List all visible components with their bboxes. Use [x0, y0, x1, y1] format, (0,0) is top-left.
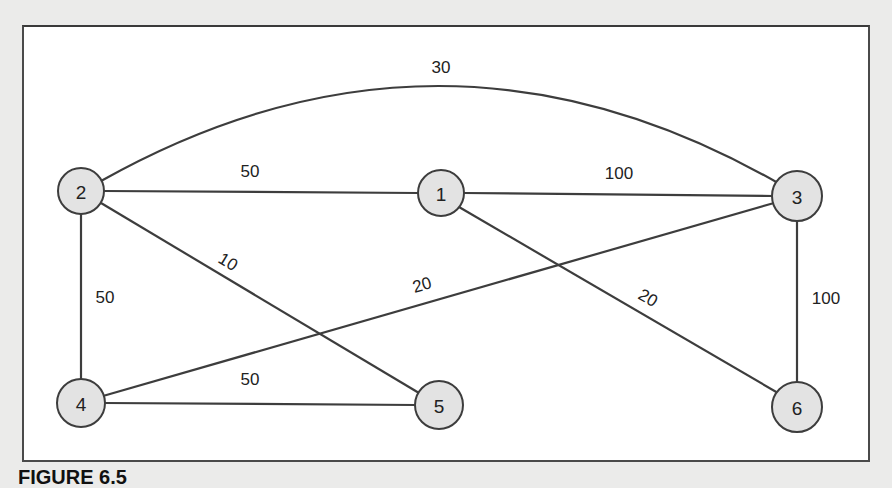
- node-1: 1: [418, 170, 464, 216]
- edge-4-3: [103, 203, 774, 396]
- edge-label-4-5: 50: [241, 370, 260, 389]
- node-6: 6: [772, 382, 822, 432]
- edge-label-3-6: 100: [812, 289, 840, 308]
- edge-1-6: [459, 207, 778, 393]
- svg-text:1: 1: [436, 184, 447, 205]
- svg-text:3: 3: [792, 187, 803, 208]
- edge-label-2-3: 30: [432, 58, 451, 77]
- edge-2-3: [101, 86, 778, 183]
- edge-label-2-4: 50: [96, 288, 115, 307]
- svg-text:6: 6: [792, 398, 803, 419]
- node-4: 4: [57, 379, 105, 427]
- figure-caption: FIGURE 6.5: [18, 467, 127, 487]
- node-5: 5: [415, 381, 463, 429]
- svg-text:2: 2: [76, 182, 87, 203]
- node-3: 3: [772, 171, 822, 221]
- node-2: 2: [58, 168, 104, 214]
- edge-label-2-1: 50: [241, 162, 260, 181]
- edge-label-2-5: 10: [215, 249, 241, 275]
- edge-1-3: [464, 193, 773, 196]
- edge-label-1-6: 20: [635, 285, 661, 311]
- svg-text:4: 4: [76, 394, 87, 415]
- caption-label: FIGURE 6.5: [18, 466, 127, 488]
- svg-text:5: 5: [434, 396, 445, 417]
- edge-label-1-3: 100: [605, 164, 633, 183]
- edge-2-1: [104, 191, 418, 193]
- edge-label-4-3: 20: [410, 273, 433, 296]
- edge-4-5: [104, 403, 416, 405]
- edge-2-5: [101, 203, 419, 393]
